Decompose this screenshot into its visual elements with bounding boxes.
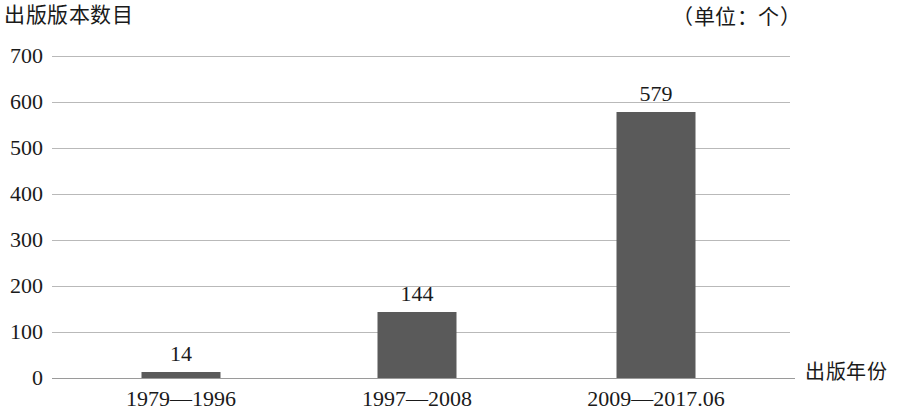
unit-note: （单位：个） bbox=[672, 4, 801, 30]
x-axis-label-1: 1979—1996 bbox=[126, 386, 236, 412]
x-axis-labels: 1979—1996 1997—2008 2009—2017.06 bbox=[52, 386, 790, 414]
y-tick-label-400: 400 bbox=[10, 183, 43, 205]
x-axis-title: 出版年份 bbox=[805, 360, 887, 384]
x-axis-label-3: 2009—2017.06 bbox=[587, 386, 725, 412]
bar-series: 14 144 579 bbox=[52, 56, 790, 378]
bar-group-1[interactable]: 14 bbox=[142, 372, 221, 378]
y-tick-label-0: 0 bbox=[32, 367, 43, 389]
y-tick-label-600: 600 bbox=[10, 91, 43, 113]
bar-group-2[interactable]: 144 bbox=[378, 312, 457, 378]
bar-value-label-3: 579 bbox=[640, 82, 673, 106]
bar-value-label-2: 144 bbox=[401, 282, 434, 306]
x-axis-label-2: 1997—2008 bbox=[362, 386, 472, 412]
plot-area: 700 600 500 400 300 200 100 0 14 bbox=[52, 56, 790, 378]
bar-1[interactable] bbox=[142, 372, 221, 378]
y-tick-label-700: 700 bbox=[10, 45, 43, 67]
bar-group-3[interactable]: 579 bbox=[617, 112, 696, 378]
y-tick-label-500: 500 bbox=[10, 137, 43, 159]
y-axis-title: 出版版本数目 bbox=[4, 2, 133, 28]
bar-value-label-1: 14 bbox=[170, 342, 192, 366]
bar-3[interactable] bbox=[617, 112, 696, 378]
y-tick-label-200: 200 bbox=[10, 275, 43, 297]
y-tick-label-300: 300 bbox=[10, 229, 43, 251]
bar-chart: 出版版本数目 （单位：个） 700 600 500 400 300 200 10… bbox=[0, 0, 897, 414]
x-axis-line: 0 bbox=[52, 378, 795, 379]
y-tick-label-100: 100 bbox=[10, 321, 43, 343]
bar-2[interactable] bbox=[378, 312, 457, 378]
